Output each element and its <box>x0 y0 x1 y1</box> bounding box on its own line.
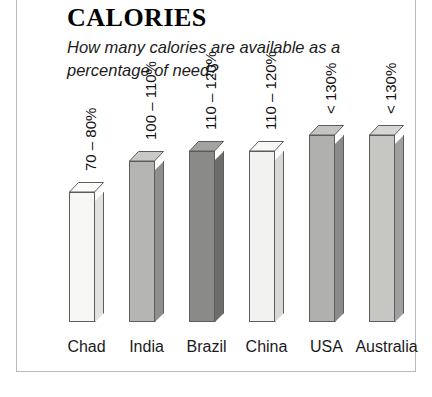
calories-figure: CALORIES How many calories are available… <box>0 0 432 397</box>
bar-value-label: 70 – 80% <box>82 51 99 171</box>
bar-australia: < 130% <box>369 135 404 322</box>
bar-top-face <box>369 125 404 136</box>
bar-front-face <box>189 151 215 322</box>
category-label-china: China <box>235 338 298 356</box>
bar-value-label: < 130% <box>382 0 399 114</box>
category-label-india: India <box>115 338 178 356</box>
bar-top-face <box>249 141 284 152</box>
bar-usa: < 130% <box>309 135 344 322</box>
category-label-usa: USA <box>295 338 358 356</box>
page-title: CALORIES <box>67 4 207 31</box>
category-label-brazil: Brazil <box>175 338 238 356</box>
bar-front-face <box>69 192 95 322</box>
bar-top-face <box>189 141 224 152</box>
bar-value-label: < 130% <box>322 0 339 114</box>
figure-subtitle: How many calories are available as a per… <box>67 36 387 82</box>
bar-chad: 70 – 80% <box>69 192 104 322</box>
bar-india: 100 – 110% <box>129 161 164 322</box>
bar-front-face <box>249 151 275 322</box>
bar-top-face <box>129 151 164 162</box>
bar-side-face <box>155 161 164 322</box>
category-label-chad: Chad <box>55 338 118 356</box>
category-label-australia: Australia <box>355 338 418 356</box>
bar-value-label: 110 – 120% <box>262 10 279 130</box>
bar-front-face <box>309 135 335 322</box>
bar-side-face <box>395 135 404 322</box>
bar-top-face <box>69 182 104 193</box>
bar-top-face <box>309 125 344 136</box>
bar-value-label: 100 – 110% <box>142 20 159 140</box>
bar-side-face <box>215 151 224 322</box>
bar-value-label: 110 – 120% <box>202 10 219 130</box>
bar-brazil: 110 – 120% <box>189 151 224 322</box>
bar-chart-plot-area: 70 – 80%Chad100 – 110%India110 – 120%Bra… <box>33 96 432 372</box>
figure-frame: CALORIES How many calories are available… <box>16 0 416 372</box>
bar-front-face <box>129 161 155 322</box>
bar-side-face <box>335 135 344 322</box>
bar-side-face <box>95 192 104 322</box>
bar-front-face <box>369 135 395 322</box>
bar-side-face <box>275 151 284 322</box>
bar-china: 110 – 120% <box>249 151 284 322</box>
